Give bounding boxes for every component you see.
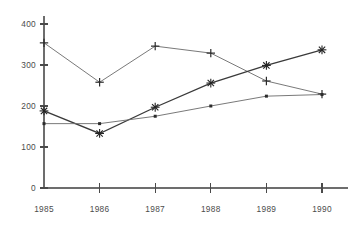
y-tick-label: 200 xyxy=(21,101,36,111)
chart-canvas: 0100200300400198519861987198819891990 xyxy=(0,0,354,232)
y-tick-label: 0 xyxy=(31,183,36,193)
y-tick-label: 400 xyxy=(21,19,36,29)
x-tick-label: 1987 xyxy=(145,204,165,214)
data-point-marker xyxy=(98,122,101,125)
series-line xyxy=(44,50,322,134)
y-tick-label: 100 xyxy=(21,142,36,152)
y-tick-label: 300 xyxy=(21,60,36,70)
data-point-marker xyxy=(154,115,157,118)
data-point-marker xyxy=(265,95,268,98)
series-line xyxy=(44,43,322,94)
data-point-marker xyxy=(43,122,46,125)
series-3 xyxy=(43,93,324,125)
data-point-marker xyxy=(209,105,212,108)
x-tick-label: 1988 xyxy=(201,204,221,214)
axes-group xyxy=(40,16,348,193)
line-chart: 0100200300400198519861987198819891990 xyxy=(0,0,354,232)
series-line xyxy=(44,95,322,124)
x-tick-label: 1986 xyxy=(90,204,110,214)
x-tick-label: 1985 xyxy=(34,204,54,214)
tick-labels-group: 0100200300400198519861987198819891990 xyxy=(21,19,332,214)
series-1 xyxy=(40,39,326,99)
x-tick-label: 1989 xyxy=(257,204,277,214)
data-point-marker xyxy=(321,93,324,96)
series-group xyxy=(40,39,327,138)
x-tick-label: 1990 xyxy=(312,204,332,214)
